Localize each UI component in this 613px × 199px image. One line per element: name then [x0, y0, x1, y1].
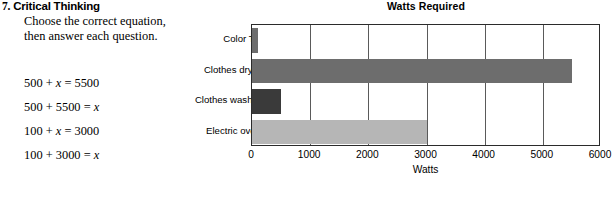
equation-text: 500 + 5500 = — [24, 100, 94, 114]
x-tick-label: 4000 — [472, 149, 495, 160]
bar — [252, 89, 281, 114]
equation-option: 100 + 3000 = x — [24, 148, 174, 164]
equation-text: = 5500 — [61, 76, 99, 90]
equation-option: 500 + x = 5500 — [24, 76, 174, 92]
equation-text: 100 + 3000 = — [24, 148, 94, 162]
problem-prompt: Choose the correct equation, then answer… — [24, 14, 174, 44]
problem-panel: 7. Critical Thinking Choose the correct … — [0, 0, 176, 199]
equation-text: = 3000 — [61, 124, 99, 138]
equation-option: 100 + x = 3000 — [24, 124, 174, 140]
bar-chart: Watts Required Color TVClothes dryerClot… — [176, 0, 613, 199]
plot-area — [251, 24, 600, 146]
x-tick-label: 1000 — [298, 149, 321, 160]
equation-list: 500 + x = 5500500 + 5500 = x100 + x = 30… — [24, 76, 174, 172]
bar — [252, 120, 427, 145]
equation-variable: x — [94, 100, 100, 114]
problem-heading-text: Critical Thinking — [13, 0, 100, 12]
problem-number: 7. — [2, 0, 10, 12]
x-tick-label: 5000 — [530, 149, 553, 160]
bar — [252, 59, 572, 84]
x-tick-label: 6000 — [589, 149, 612, 160]
chart-title: Watts Required — [251, 0, 601, 12]
equation-option: 500 + 5500 = x — [24, 100, 174, 116]
x-tick-label: 2000 — [356, 149, 379, 160]
bar — [252, 28, 258, 53]
equation-text: 100 + — [24, 124, 56, 138]
equation-text: 500 + — [24, 76, 56, 90]
x-tick-label: 0 — [248, 149, 254, 160]
equation-variable: x — [94, 148, 100, 162]
x-axis-title: Watts — [251, 164, 600, 175]
bar-series — [252, 25, 599, 145]
problem-heading: 7. Critical Thinking — [2, 0, 174, 12]
x-tick-label: 3000 — [414, 149, 437, 160]
